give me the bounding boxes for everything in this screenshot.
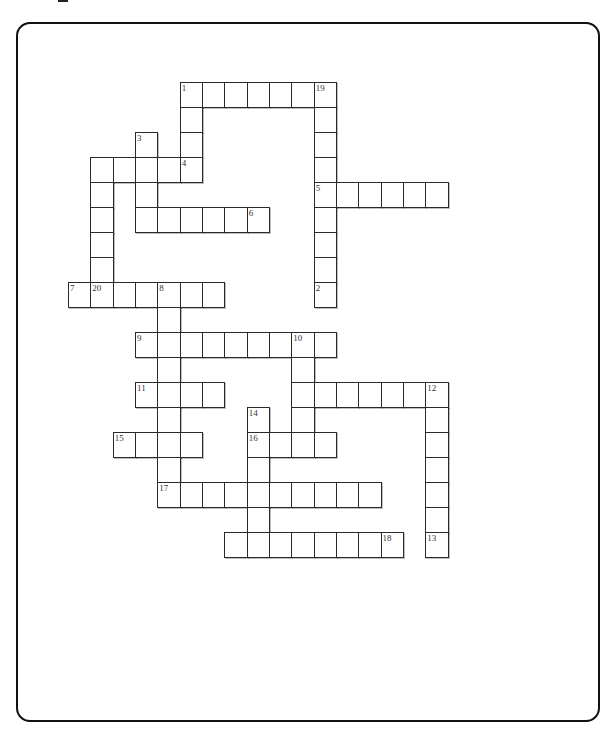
- crossword-cell[interactable]: [135, 207, 158, 233]
- crossword-cell[interactable]: [314, 482, 337, 508]
- crossword-cell[interactable]: [336, 532, 359, 558]
- crossword-cell[interactable]: 8: [157, 282, 180, 308]
- crossword-cell[interactable]: [358, 482, 381, 508]
- crossword-cell[interactable]: [90, 257, 113, 283]
- crossword-cell[interactable]: [90, 232, 113, 258]
- crossword-cell[interactable]: 6: [247, 207, 270, 233]
- crossword-cell[interactable]: [336, 382, 359, 408]
- crossword-cell[interactable]: [358, 532, 381, 558]
- crossword-cell[interactable]: [157, 307, 180, 333]
- crossword-cell[interactable]: [314, 332, 337, 358]
- crossword-cell[interactable]: [157, 457, 180, 483]
- crossword-cell[interactable]: [135, 157, 158, 183]
- crossword-cell[interactable]: [291, 407, 314, 433]
- crossword-cell[interactable]: [314, 157, 337, 183]
- crossword-cell[interactable]: [381, 382, 404, 408]
- crossword-cell[interactable]: [224, 82, 247, 108]
- crossword-cell[interactable]: [247, 332, 270, 358]
- crossword-cell[interactable]: [269, 332, 292, 358]
- crossword-cell[interactable]: [135, 432, 158, 458]
- crossword-cell[interactable]: [202, 332, 225, 358]
- crossword-cell[interactable]: [224, 207, 247, 233]
- crossword-cell[interactable]: [314, 132, 337, 158]
- crossword-cell[interactable]: [291, 382, 314, 408]
- crossword-cell[interactable]: 12: [425, 382, 448, 408]
- crossword-cell[interactable]: [180, 207, 203, 233]
- crossword-cell[interactable]: [202, 82, 225, 108]
- crossword-cell[interactable]: [157, 157, 180, 183]
- crossword-cell[interactable]: [90, 182, 113, 208]
- crossword-cell[interactable]: [224, 332, 247, 358]
- crossword-cell[interactable]: [291, 482, 314, 508]
- crossword-cell[interactable]: [314, 257, 337, 283]
- crossword-cell[interactable]: 19: [314, 82, 337, 108]
- crossword-cell[interactable]: [180, 282, 203, 308]
- crossword-cell[interactable]: [180, 432, 203, 458]
- crossword-cell[interactable]: [314, 232, 337, 258]
- crossword-cell[interactable]: 2: [314, 282, 337, 308]
- crossword-cell[interactable]: [336, 482, 359, 508]
- crossword-cell[interactable]: [314, 207, 337, 233]
- crossword-cell[interactable]: 16: [247, 432, 270, 458]
- crossword-cell[interactable]: [425, 407, 448, 433]
- crossword-cell[interactable]: [291, 82, 314, 108]
- crossword-cell[interactable]: [358, 182, 381, 208]
- crossword-cell[interactable]: 4: [180, 157, 203, 183]
- crossword-cell[interactable]: [157, 382, 180, 408]
- crossword-cell[interactable]: [425, 182, 448, 208]
- crossword-cell[interactable]: [202, 207, 225, 233]
- crossword-cell[interactable]: [113, 157, 136, 183]
- crossword-cell[interactable]: 15: [113, 432, 136, 458]
- crossword-cell[interactable]: [224, 482, 247, 508]
- crossword-cell[interactable]: [425, 457, 448, 483]
- crossword-cell[interactable]: [425, 482, 448, 508]
- crossword-cell[interactable]: [202, 482, 225, 508]
- crossword-cell[interactable]: 17: [157, 482, 180, 508]
- crossword-cell[interactable]: [247, 457, 270, 483]
- crossword-cell[interactable]: [291, 432, 314, 458]
- crossword-cell[interactable]: 3: [135, 132, 158, 158]
- crossword-cell[interactable]: [314, 432, 337, 458]
- crossword-cell[interactable]: [314, 107, 337, 133]
- crossword-cell[interactable]: [269, 532, 292, 558]
- crossword-cell[interactable]: [135, 282, 158, 308]
- crossword-cell[interactable]: [425, 432, 448, 458]
- crossword-cell[interactable]: 5: [314, 182, 337, 208]
- crossword-cell[interactable]: [314, 532, 337, 558]
- crossword-cell[interactable]: [403, 182, 426, 208]
- crossword-cell[interactable]: [90, 207, 113, 233]
- crossword-cell[interactable]: [381, 182, 404, 208]
- crossword-cell[interactable]: [358, 382, 381, 408]
- crossword-cell[interactable]: [336, 182, 359, 208]
- crossword-cell[interactable]: [180, 382, 203, 408]
- crossword-cell[interactable]: [180, 132, 203, 158]
- crossword-cell[interactable]: [425, 507, 448, 533]
- crossword-cell[interactable]: [247, 482, 270, 508]
- crossword-cell[interactable]: [224, 532, 247, 558]
- crossword-cell[interactable]: [157, 432, 180, 458]
- crossword-cell[interactable]: [269, 82, 292, 108]
- crossword-cell[interactable]: [157, 207, 180, 233]
- crossword-cell[interactable]: [157, 332, 180, 358]
- crossword-cell[interactable]: 20: [90, 282, 113, 308]
- crossword-cell[interactable]: 9: [135, 332, 158, 358]
- crossword-cell[interactable]: 1: [180, 82, 203, 108]
- crossword-cell[interactable]: 11: [135, 382, 158, 408]
- crossword-cell[interactable]: [247, 507, 270, 533]
- crossword-cell[interactable]: [269, 432, 292, 458]
- crossword-cell[interactable]: 18: [381, 532, 404, 558]
- crossword-cell[interactable]: [180, 107, 203, 133]
- crossword-cell[interactable]: [403, 382, 426, 408]
- crossword-cell[interactable]: 10: [291, 332, 314, 358]
- crossword-cell[interactable]: [291, 532, 314, 558]
- crossword-cell[interactable]: [157, 407, 180, 433]
- crossword-cell[interactable]: 14: [247, 407, 270, 433]
- crossword-cell[interactable]: [314, 382, 337, 408]
- crossword-cell[interactable]: [113, 282, 136, 308]
- crossword-cell[interactable]: [157, 357, 180, 383]
- crossword-cell[interactable]: [247, 532, 270, 558]
- crossword-cell[interactable]: [135, 182, 158, 208]
- crossword-cell[interactable]: [247, 82, 270, 108]
- crossword-cell[interactable]: [291, 357, 314, 383]
- crossword-cell[interactable]: 13: [425, 532, 448, 558]
